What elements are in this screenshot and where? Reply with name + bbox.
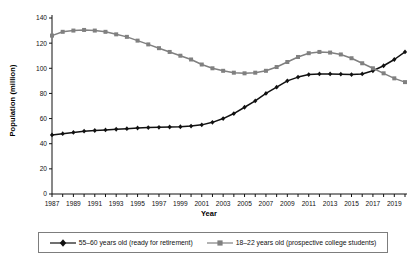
legend-label-college: 18–22 years old (prospective college stu…	[236, 239, 377, 246]
x-axis-tick-label: 2001	[194, 200, 209, 207]
data-point-marker	[114, 127, 118, 132]
data-point-marker	[360, 72, 364, 77]
data-point-marker	[360, 61, 364, 65]
data-point-marker	[328, 51, 332, 55]
x-axis-tick-label: 2011	[302, 200, 317, 207]
data-point-marker	[93, 128, 97, 133]
data-point-marker	[339, 52, 343, 56]
data-point-marker	[307, 72, 311, 77]
data-point-marker	[178, 124, 182, 129]
data-point-marker	[307, 51, 311, 55]
data-point-marker	[157, 46, 161, 50]
x-axis-tick-label: 2013	[323, 200, 338, 207]
data-point-marker	[71, 29, 75, 33]
data-point-marker	[382, 71, 386, 75]
legend-marker-square-icon	[207, 238, 233, 248]
x-axis-tick-label: 2005	[237, 200, 252, 207]
data-point-marker	[328, 72, 332, 77]
data-point-marker	[103, 30, 107, 34]
data-point-marker	[275, 65, 279, 69]
x-axis-tick-label: 2017	[366, 200, 381, 207]
series-line	[52, 52, 405, 135]
data-point-marker	[50, 133, 54, 138]
y-axis-tick-label: 140	[36, 14, 47, 21]
x-axis-tick-label: 2019	[387, 200, 402, 207]
x-axis-tick-label: 1989	[66, 200, 81, 207]
y-axis-title: Population (million)	[8, 41, 17, 161]
x-axis-tick-label: 2007	[259, 200, 274, 207]
data-point-marker	[392, 76, 396, 80]
data-point-marker	[296, 55, 300, 59]
x-axis-tick-label: 2015	[344, 200, 359, 207]
legend-marker-diamond-icon	[50, 238, 76, 248]
series-retirement	[50, 50, 407, 138]
y-axis-tick-label: 40	[40, 140, 48, 147]
data-point-marker	[210, 66, 214, 70]
y-axis-tick-label: 80	[40, 90, 48, 97]
y-axis-tick-label: 0	[43, 190, 47, 197]
data-point-marker	[264, 69, 268, 73]
legend-item-college: 18–22 years old (prospective college stu…	[207, 238, 377, 248]
data-point-marker	[317, 50, 321, 54]
x-axis-tick-label: 1995	[130, 200, 145, 207]
data-point-marker	[200, 63, 204, 67]
data-point-marker	[93, 29, 97, 33]
data-point-marker	[71, 130, 75, 135]
plot-svg: 0204060801001201401987198919911993199519…	[0, 0, 418, 225]
data-point-marker	[200, 122, 204, 127]
data-point-marker	[317, 72, 321, 77]
x-axis-tick-label: 1999	[173, 200, 188, 207]
chart-screenshot: 0204060801001201401987198919911993199519…	[0, 0, 418, 265]
data-point-marker	[114, 32, 118, 36]
data-point-marker	[221, 69, 225, 73]
data-point-marker	[61, 131, 65, 136]
line-chart: 0204060801001201401987198919911993199519…	[0, 0, 418, 225]
data-point-marker	[243, 71, 247, 75]
data-point-marker	[136, 39, 140, 43]
data-point-marker	[125, 126, 129, 131]
x-axis-tick-label: 1993	[109, 200, 124, 207]
legend-label-retirement: 55–60 years old (ready for retirement)	[79, 239, 193, 246]
y-axis-tick-label: 100	[36, 65, 47, 72]
data-point-marker	[178, 54, 182, 58]
x-axis-tick-label: 2003	[216, 200, 231, 207]
data-point-marker	[103, 127, 107, 132]
x-axis-tick-label: 1991	[87, 200, 102, 207]
data-point-marker	[61, 30, 65, 34]
data-point-marker	[146, 42, 150, 46]
x-axis-tick-label: 1997	[152, 200, 167, 207]
legend-item-retirement: 55–60 years old (ready for retirement)	[50, 238, 193, 248]
data-point-marker	[210, 120, 214, 125]
chart-legend: 55–60 years old (ready for retirement) 1…	[38, 232, 388, 253]
data-point-marker	[253, 71, 257, 75]
data-point-marker	[168, 50, 172, 54]
data-point-marker	[350, 56, 354, 60]
data-point-marker	[339, 72, 343, 77]
data-point-marker	[189, 57, 193, 61]
data-point-marker	[82, 28, 86, 32]
data-point-marker	[296, 75, 300, 80]
data-point-marker	[82, 129, 86, 134]
data-point-marker	[403, 80, 407, 84]
y-axis-tick-label: 120	[36, 40, 47, 47]
data-point-marker	[157, 125, 161, 130]
data-point-marker	[221, 116, 225, 121]
y-axis-tick-label: 20	[40, 165, 48, 172]
data-point-marker	[189, 124, 193, 129]
data-point-marker	[168, 125, 172, 130]
y-axis-tick-label: 60	[40, 115, 48, 122]
data-point-marker	[125, 35, 129, 39]
x-axis-tick-label: 2009	[280, 200, 295, 207]
data-point-marker	[146, 125, 150, 130]
data-point-marker	[50, 34, 54, 38]
data-point-marker	[349, 72, 353, 77]
data-point-marker	[135, 126, 139, 131]
x-axis-title: Year	[0, 209, 418, 218]
data-point-marker	[285, 60, 289, 64]
data-point-marker	[232, 71, 236, 75]
data-point-marker	[371, 66, 375, 70]
x-axis-tick-label: 1987	[45, 200, 60, 207]
series-college	[50, 28, 407, 84]
